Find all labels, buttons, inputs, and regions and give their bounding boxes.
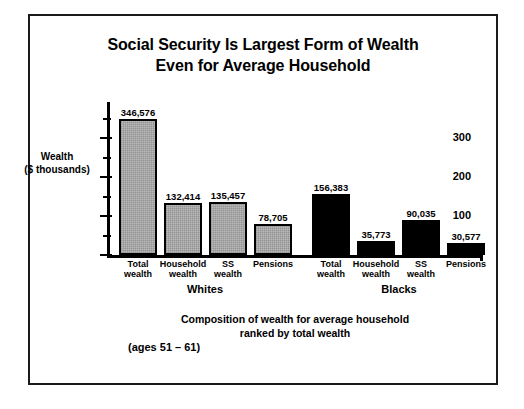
bar-label-blacks-total-wealth: Total wealth: [317, 259, 345, 279]
bar-blacks-pensions: 30,577 Pensions: [447, 243, 485, 255]
bar-whites-pensions: 78,705 Pensions: [254, 224, 292, 255]
bar-label-blacks-pensions: Pensions: [446, 259, 486, 269]
bar-label-blacks-household-wealth: Household wealth: [353, 259, 400, 279]
bar-label-whites-pensions: Pensions: [253, 259, 293, 269]
bar-whites-ss-wealth: 135,457 SS wealth: [209, 202, 247, 255]
bar-label-whites-ss-wealth: SS wealth: [214, 259, 242, 279]
chart-title: Social Security Is Largest Form of Wealt…: [30, 34, 496, 76]
bar-blacks-ss-wealth: 90,035 SS wealth: [402, 220, 440, 255]
bar-whites-household-wealth: 132,414 Household wealth: [164, 203, 202, 255]
bar-label-whites-household-wealth: Household wealth: [160, 259, 207, 279]
y-tick-300: [100, 137, 112, 139]
y-tick-label-300: 300: [431, 132, 471, 143]
y-tick-200: [100, 176, 112, 178]
bar-value-blacks-pensions: 30,577: [451, 232, 480, 242]
y-tick-minor-350: [103, 118, 111, 120]
chart-title-line-1: Social Security Is Largest Form of Wealt…: [30, 34, 496, 55]
bar-blacks-household-wealth: 35,773 Household wealth: [357, 241, 395, 255]
y-tick-minor-250: [103, 157, 111, 159]
y-tick-minor-50: [103, 235, 111, 237]
plot-area: 0 100 200 300 346,576 Total wealth 132,4…: [107, 118, 482, 255]
group-label-whites: Whites: [187, 283, 223, 295]
chart-title-line-2: Even for Average Household: [30, 55, 496, 76]
bar-value-blacks-ss-wealth: 90,035: [406, 209, 435, 219]
chart-caption-line-1: Composition of wealth for average househ…: [150, 312, 440, 326]
y-tick-100: [100, 215, 112, 217]
bar-value-blacks-household-wealth: 35,773: [361, 230, 390, 240]
y-axis-title-line-2: ($ thousands): [11, 163, 103, 176]
bar-value-blacks-total-wealth: 156,383: [314, 183, 348, 193]
y-tick-label-200: 200: [431, 171, 471, 182]
bar-value-whites-household-wealth: 132,414: [166, 192, 200, 202]
bar-value-whites-ss-wealth: 135,457: [211, 191, 245, 201]
y-tick-minor-150: [103, 196, 111, 198]
bar-value-whites-pensions: 78,705: [258, 213, 287, 223]
chart-caption-line-2: ranked by total wealth: [150, 326, 440, 340]
slide-frame: Social Security Is Largest Form of Wealt…: [28, 14, 498, 385]
chart-caption: Composition of wealth for average househ…: [150, 312, 440, 340]
bar-label-whites-total-wealth: Total wealth: [124, 259, 152, 279]
ages-note: (ages 51 – 61): [128, 341, 200, 354]
bar-whites-total-wealth: 346,576 Total wealth: [119, 119, 157, 255]
bar-value-whites-total-wealth: 346,576: [121, 108, 155, 118]
y-axis-spine: [107, 102, 110, 255]
y-axis-title-line-1: Wealth: [11, 150, 103, 163]
group-label-blacks: Blacks: [381, 283, 416, 295]
y-axis-title: Wealth ($ thousands): [11, 150, 103, 176]
bar-label-blacks-ss-wealth: SS wealth: [407, 259, 435, 279]
y-tick-0: [100, 254, 112, 256]
bar-blacks-total-wealth: 156,383 Total wealth: [312, 194, 350, 255]
x-axis-baseline: [107, 255, 482, 258]
